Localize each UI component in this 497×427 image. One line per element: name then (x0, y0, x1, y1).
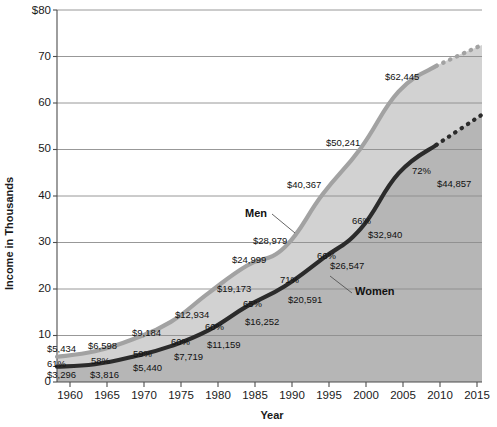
ratio-label-0: 61% (47, 358, 67, 369)
x-tick-label-1: 1965 (94, 389, 120, 401)
ratio-label-2: 59% (133, 348, 153, 359)
x-tick-label-3: 1975 (168, 389, 194, 401)
x-axis-title: Year (260, 409, 284, 421)
series-name-label-0: Men (245, 207, 267, 219)
women-value-label-1: $3,816 (90, 369, 119, 380)
y-axis-title: Income in Thousands (3, 177, 15, 290)
women-value-label-9: $44,857 (437, 178, 471, 189)
women-value-label-2: $5,440 (133, 362, 162, 373)
y-tick-label-7: 10 (38, 328, 51, 340)
women-value-label-5: $16,252 (245, 316, 279, 327)
income-by-gender-chart: $80706050403020100 196019651970197519801… (0, 0, 497, 427)
x-tick-label-4: 1980 (205, 389, 231, 401)
women-value-label-3: $7,719 (174, 351, 203, 362)
men-value-label-5: $24,999 (232, 254, 266, 265)
x-tick-label-8: 2000 (353, 389, 379, 401)
x-tick-label-7: 1995 (316, 389, 342, 401)
y-tick-label-0: $80 (32, 4, 51, 16)
ratio-label-6: 71% (280, 274, 300, 285)
y-tick-label-6: 20 (38, 282, 51, 294)
men-value-label-2: $9,184 (132, 327, 161, 338)
y-tick-label-3: 50 (38, 142, 51, 154)
x-tick-label-0: 1960 (57, 389, 83, 401)
ratio-label-8: 66% (352, 215, 372, 226)
men-value-label-6: $28,979 (253, 235, 287, 246)
men-value-label-4: $19,173 (217, 283, 251, 294)
x-tick-label-5: 1985 (242, 389, 268, 401)
men-value-label-8: $50,241 (326, 137, 360, 148)
x-tick-label-2: 1970 (131, 389, 157, 401)
women-value-label-8: $32,940 (368, 229, 402, 240)
women-value-label-6: $20,591 (288, 294, 322, 305)
y-tick-label-5: 30 (38, 235, 51, 247)
y-tick-label-4: 40 (38, 189, 51, 201)
chart-canvas: $80706050403020100 196019651970197519801… (0, 0, 497, 427)
ratio-label-5: 65% (243, 298, 263, 309)
y-tick-label-2: 60 (38, 96, 51, 108)
y-tick-label-1: 70 (38, 50, 51, 62)
ratio-label-9: 72% (412, 165, 432, 176)
women-value-label-0: $3,296 (47, 369, 76, 380)
ratio-label-4: 60% (205, 321, 225, 332)
series-name-label-1: Women (355, 285, 395, 297)
ratio-label-7: 66% (317, 250, 337, 261)
x-tick-label-9: 2005 (390, 389, 416, 401)
men-value-label-0: $5,434 (47, 343, 76, 354)
ratio-label-1: 58% (91, 355, 111, 366)
x-tick-label-6: 1990 (279, 389, 305, 401)
x-tick-label-10: 2010 (427, 389, 453, 401)
x-tick-label-11: 2015 (464, 389, 490, 401)
men-value-label-3: $12,934 (175, 309, 209, 320)
women-value-label-7: $26,547 (330, 260, 364, 271)
women-value-label-4: $11,159 (207, 339, 241, 350)
men-value-label-9: $62,445 (385, 71, 419, 82)
ratio-label-3: 60% (171, 336, 191, 347)
men-value-label-1: $6,598 (88, 340, 117, 351)
men-value-label-7: $40,367 (287, 179, 321, 190)
